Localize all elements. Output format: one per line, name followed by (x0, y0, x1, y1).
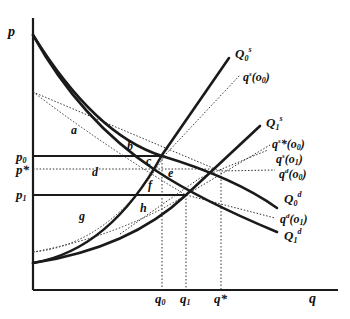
qs-o0-label: qs(o0) (243, 70, 270, 85)
pstar-label: p* (15, 162, 30, 177)
q1-label: q1 (180, 291, 191, 307)
qs-o1-curve (33, 145, 270, 252)
q0-label: q0 (155, 291, 166, 307)
supply-demand-diagram: p q p0 p* p1 q0 q1 q* Q0s qs(o0) Q1s qs*… (0, 0, 350, 319)
p1-label: p1 (15, 187, 27, 203)
qs-o0-curve (33, 75, 240, 252)
area-h-label: h (140, 201, 147, 215)
qs-o1-label: qs(o1) (276, 152, 303, 167)
area-d-label: d (92, 165, 99, 179)
area-f-label: f (148, 178, 153, 192)
Q1d-label: Q1d (284, 227, 302, 245)
Q0d-label: Q0d (284, 190, 302, 208)
qstar-label: q* (214, 291, 228, 306)
x-axis-label: q (309, 291, 316, 306)
area-a-label: a (71, 123, 77, 137)
area-b-label: b (127, 139, 133, 153)
qd-o1-curve (33, 92, 275, 218)
Q0s-label: Q0s (235, 45, 252, 63)
area-e-label: e (168, 166, 174, 180)
Q1d-curve (33, 35, 277, 232)
qd-o0-curve (33, 92, 275, 171)
qsstar-o0-label: qs*(o0) (272, 137, 305, 152)
y-axis-label: p (7, 24, 15, 39)
qd-o1-label: qd(o1) (280, 212, 308, 227)
Q1s-label: Q1s (266, 114, 283, 132)
area-g-label: g (78, 209, 85, 223)
area-c-label: c (146, 154, 152, 168)
qd-o0-label: qd(o0) (279, 167, 307, 182)
